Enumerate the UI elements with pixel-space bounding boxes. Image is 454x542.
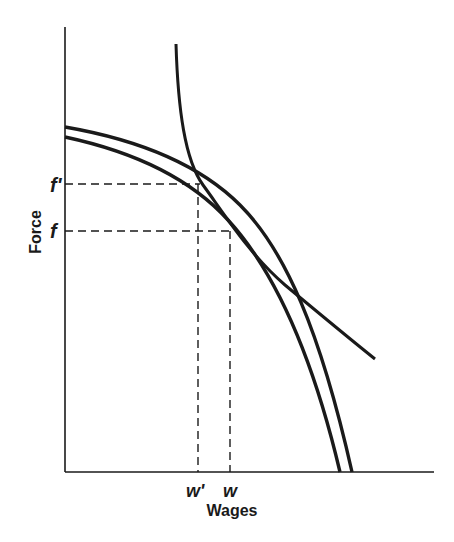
- outer-transformation-curve: [65, 127, 352, 472]
- w-label: w: [223, 481, 238, 501]
- x-axis-label: Wages: [207, 502, 258, 519]
- y-axis-label: Force: [27, 210, 44, 254]
- indifference-curve: [176, 44, 375, 359]
- w-prime-label: w': [186, 481, 205, 501]
- inner-transformation-curve: [65, 137, 340, 472]
- f-prime-label: f': [50, 174, 63, 196]
- wages-force-diagram: Force Wages f' f w' w: [0, 0, 454, 542]
- f-label: f: [50, 220, 59, 242]
